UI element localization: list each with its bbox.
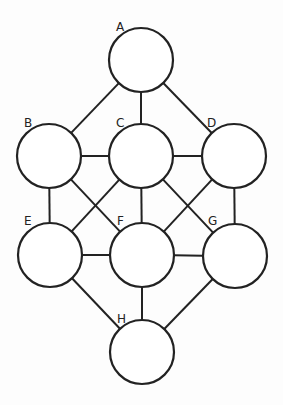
node-circle: [110, 320, 174, 384]
node-h: H: [110, 312, 174, 384]
edge-g-h: [164, 279, 212, 329]
node-circle: [18, 223, 82, 287]
graph-diagram: ABCDEFGH: [0, 0, 283, 405]
node-circle: [109, 28, 173, 92]
edge-e-h: [72, 278, 120, 329]
node-a: A: [109, 20, 173, 92]
node-label: A: [116, 20, 125, 34]
node-label: G: [208, 214, 217, 228]
node-c: C: [109, 116, 173, 188]
node-label: F: [117, 214, 124, 228]
node-label: D: [207, 116, 216, 130]
node-label: B: [24, 116, 32, 130]
node-f: F: [110, 214, 174, 287]
node-label: C: [116, 116, 124, 130]
node-e: E: [18, 214, 82, 287]
edge-a-d: [163, 83, 211, 133]
node-b: B: [17, 116, 81, 188]
node-circle: [110, 223, 174, 287]
node-circle: [17, 124, 81, 188]
node-circle: [109, 124, 173, 188]
node-circle: [203, 224, 267, 288]
node-g: G: [203, 214, 267, 288]
node-label: H: [117, 312, 126, 326]
node-label: E: [24, 214, 32, 228]
node-circle: [202, 124, 266, 188]
node-d: D: [202, 116, 266, 188]
edge-a-b: [71, 83, 119, 133]
